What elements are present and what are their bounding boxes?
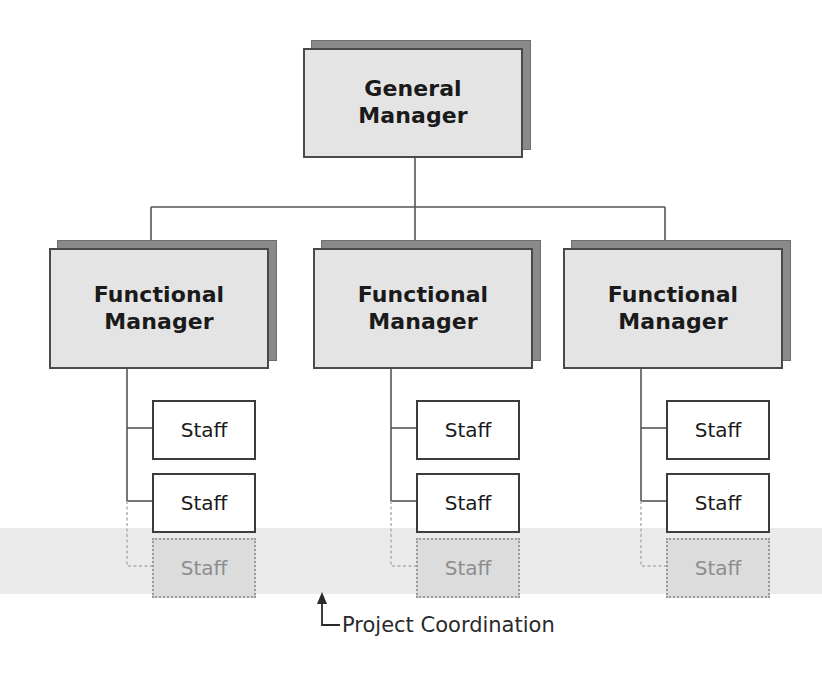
node-functional-manager-2[interactable]: Functional Manager <box>313 240 541 369</box>
node-staff-3-2[interactable]: Staff <box>666 473 770 533</box>
node-label: Staff <box>695 491 742 515</box>
node-staff-3-1[interactable]: Staff <box>666 400 770 460</box>
node-label: Staff <box>445 491 492 515</box>
card-face: General Manager <box>303 48 523 158</box>
node-label: General Manager <box>358 76 467 130</box>
callout-leader <box>322 602 340 625</box>
node-label: Staff <box>445 418 492 442</box>
node-label: Functional Manager <box>94 282 225 336</box>
node-staff-1-2[interactable]: Staff <box>152 473 256 533</box>
node-staff-1-1[interactable]: Staff <box>152 400 256 460</box>
node-label: Staff <box>181 556 228 580</box>
node-label: Functional Manager <box>358 282 489 336</box>
callout-label: Project Coordination <box>342 613 555 637</box>
node-staff-2-3[interactable]: Staff <box>416 538 520 598</box>
node-label: Staff <box>181 418 228 442</box>
node-label: Staff <box>181 491 228 515</box>
node-functional-manager-3[interactable]: Functional Manager <box>563 240 791 369</box>
node-label: Staff <box>445 556 492 580</box>
node-label: Staff <box>695 418 742 442</box>
node-functional-manager-1[interactable]: Functional Manager <box>49 240 277 369</box>
node-staff-2-2[interactable]: Staff <box>416 473 520 533</box>
node-staff-2-1[interactable]: Staff <box>416 400 520 460</box>
node-general-manager[interactable]: General Manager <box>303 40 531 158</box>
card-face: Functional Manager <box>49 248 269 369</box>
card-face: Functional Manager <box>563 248 783 369</box>
node-label: Functional Manager <box>608 282 739 336</box>
node-staff-3-3[interactable]: Staff <box>666 538 770 598</box>
org-chart: General Manager Functional Manager Funct… <box>0 0 822 674</box>
node-label: Staff <box>695 556 742 580</box>
card-face: Functional Manager <box>313 248 533 369</box>
node-staff-1-3[interactable]: Staff <box>152 538 256 598</box>
